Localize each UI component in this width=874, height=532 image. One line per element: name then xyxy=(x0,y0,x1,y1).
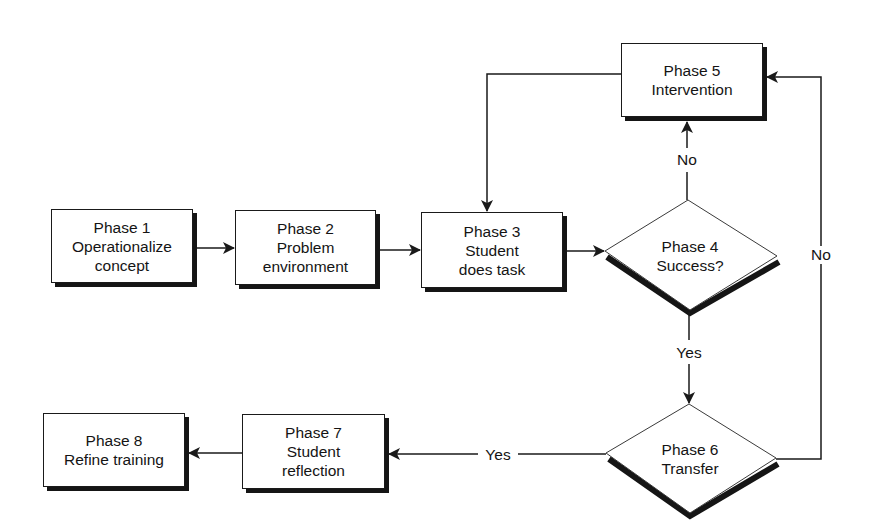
node-phase1-line2: Operationalize xyxy=(72,237,172,256)
node-phase2-line3: environment xyxy=(263,257,348,276)
arrow-phase6-to-phase5 xyxy=(767,77,821,459)
node-phase2-line2: Problem xyxy=(277,238,335,257)
node-phase8-line2: Refine training xyxy=(64,450,164,469)
node-phase3-line2: Student xyxy=(465,241,518,260)
node-phase8-title: Phase 8 xyxy=(86,431,143,450)
node-phase6-line2: Transfer xyxy=(661,459,718,478)
node-phase1: Phase 1 Operationalize concept xyxy=(51,209,193,283)
node-phase6-title: Phase 6 xyxy=(662,440,719,459)
node-phase5-line2: Intervention xyxy=(652,80,733,99)
node-phase4: Phase 4 Success? xyxy=(630,236,750,276)
node-phase4-title: Phase 4 xyxy=(662,237,719,256)
edge-label-phase6-yes: Yes xyxy=(483,446,512,464)
node-phase5-title: Phase 5 xyxy=(664,61,721,80)
node-phase6: Phase 6 Transfer xyxy=(630,439,750,479)
edge-label-phase4-no: No xyxy=(675,151,699,169)
node-phase3-title: Phase 3 xyxy=(464,222,521,241)
node-phase7-line2: Student xyxy=(287,442,340,461)
node-phase7: Phase 7 Student reflection xyxy=(242,414,385,489)
flowchart: Phase 1 Operationalize concept Phase 2 P… xyxy=(0,0,874,532)
edge-label-phase4-yes: Yes xyxy=(674,344,703,362)
node-phase3-line3: does task xyxy=(459,260,525,279)
node-phase5: Phase 5 Intervention xyxy=(621,43,763,117)
node-phase1-title: Phase 1 xyxy=(94,218,151,237)
node-phase7-line3: reflection xyxy=(282,461,345,480)
node-phase2: Phase 2 Problem environment xyxy=(235,210,376,285)
node-phase4-line2: Success? xyxy=(656,256,723,275)
arrow-phase5-to-phase3 xyxy=(487,74,621,211)
edge-label-phase6-no: No xyxy=(809,246,833,264)
node-phase7-title: Phase 7 xyxy=(285,423,342,442)
node-phase2-title: Phase 2 xyxy=(277,219,334,238)
node-phase1-line3: concept xyxy=(95,256,149,275)
node-phase8: Phase 8 Refine training xyxy=(43,413,185,487)
node-phase3: Phase 3 Student does task xyxy=(421,212,563,288)
